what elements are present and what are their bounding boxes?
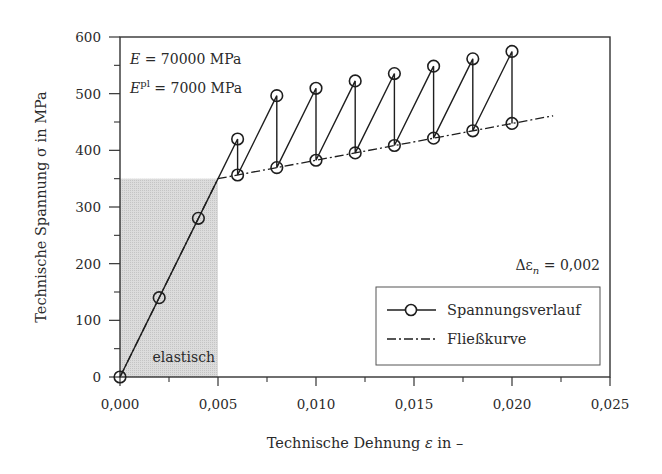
y-tick-label: 400 — [75, 142, 101, 158]
legend-label-spannungsverlauf: Spannungsverlauf — [447, 302, 582, 318]
chart: elastisch 0,0000,0050,0100,0150,0200,025… — [0, 0, 662, 474]
x-tick-label: 0,025 — [591, 396, 630, 412]
y-tick-label: 600 — [75, 29, 101, 45]
x-tick-label: 0,015 — [395, 396, 434, 412]
annotation-strain-increment: Δεn = 0,002 — [515, 257, 600, 276]
y-tick-label: 500 — [75, 86, 101, 102]
x-tick-label: 0,020 — [493, 396, 532, 412]
stress-strain-chart: elastisch 0,0000,0050,0100,0150,0200,025… — [0, 0, 662, 474]
x-tick-label: 0,010 — [297, 396, 336, 412]
legend-box — [376, 287, 600, 365]
y-tick-label: 300 — [75, 199, 101, 215]
x-tick-label: 0,000 — [101, 396, 140, 412]
y-axis-title: Technische Spannung σ in MPa — [33, 91, 49, 323]
y-axis-ticks: 0100200300400500600 — [75, 29, 120, 385]
annotation-plastic-modulus: Epl = 7000 MPa — [129, 78, 242, 96]
x-axis-title: Technische Dehnung ε in – — [267, 435, 463, 451]
legend-label-fliesskurve: Fließkurve — [447, 331, 526, 347]
annotation-e-modulus: E = 70000 MPa — [129, 51, 241, 67]
x-tick-label: 0,005 — [199, 396, 238, 412]
x-axis-ticks: 0,0000,0050,0100,0150,0200,025 — [101, 377, 630, 412]
elastic-region-label: elastisch — [153, 349, 215, 365]
y-tick-label: 0 — [92, 369, 101, 385]
y-tick-label: 200 — [75, 256, 101, 272]
legend: Spannungsverlauf Fließkurve — [376, 287, 600, 365]
legend-circle-marker-icon — [406, 305, 417, 316]
y-tick-label: 100 — [75, 312, 101, 328]
